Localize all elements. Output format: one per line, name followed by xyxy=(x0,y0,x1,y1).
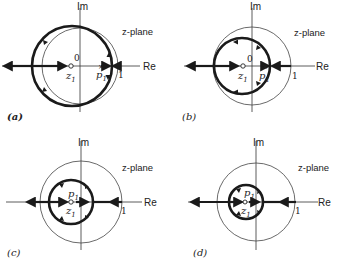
unit-label: 1 xyxy=(121,206,127,216)
zero-marker xyxy=(241,64,245,68)
plane-label: z-plane xyxy=(294,27,325,38)
imag-axis-label: Im xyxy=(253,137,264,148)
panel-a: × Im Re z-plane 0 1 z1 p1 (a) xyxy=(2,1,156,122)
unit-label: 1 xyxy=(118,70,124,80)
panel-d: Im Re z-plane 1 p1 z1 (d) xyxy=(188,137,331,258)
real-axis-label: Re xyxy=(143,61,156,72)
panel-b: × Im Re z-plane 0 1 z1 p1 (b) xyxy=(182,1,329,122)
pole-label: p1 xyxy=(96,69,107,83)
panel-caption: (c) xyxy=(7,247,21,258)
zero-label: z1 xyxy=(240,205,251,219)
unit-label: 1 xyxy=(292,71,298,81)
panel-caption: (d) xyxy=(193,247,207,258)
zero-label: z1 xyxy=(237,70,248,84)
pole-label: p1 xyxy=(244,187,255,201)
circle-arrow-tl xyxy=(43,40,48,45)
plane-label: z-plane xyxy=(122,162,153,173)
origin-label: 0 xyxy=(247,54,253,64)
imag-axis-label: Im xyxy=(77,1,88,12)
plane-label: z-plane xyxy=(298,162,329,173)
panel-caption: (a) xyxy=(7,111,23,122)
origin-label: 0 xyxy=(74,53,80,63)
zero-marker xyxy=(69,64,73,68)
imag-axis-label: Im xyxy=(78,137,89,148)
zero-marker xyxy=(69,200,73,204)
panel-caption: (b) xyxy=(182,111,196,122)
root-locus-figure: × Im Re z-plane 0 1 z1 p1 (a) × Im Re z-… xyxy=(0,0,337,265)
real-axis-label: Re xyxy=(318,197,331,208)
zero-label: z1 xyxy=(65,70,76,84)
imag-axis-label: Im xyxy=(250,1,261,12)
panel-c: Im Re z-plane 1 p1 z1 (c) xyxy=(6,137,157,258)
unit-label: 1 xyxy=(295,206,301,216)
plane-label: z-plane xyxy=(122,26,153,37)
zero-marker xyxy=(243,200,247,204)
zero-label: z1 xyxy=(65,205,76,219)
real-axis-label: Re xyxy=(144,197,157,208)
circle-arrow-br xyxy=(256,81,261,86)
circle-arrow-bl xyxy=(42,87,47,92)
real-axis-label: Re xyxy=(316,61,329,72)
